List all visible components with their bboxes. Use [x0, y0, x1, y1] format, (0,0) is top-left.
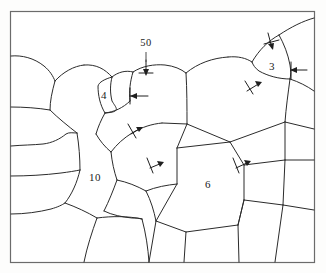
grain-label-10: 10: [89, 171, 101, 183]
grain-structure-diagram: 50 4 3 10 6: [0, 0, 326, 273]
diagram-frame: [11, 12, 315, 263]
grain-label-4: 4: [101, 89, 107, 101]
callout-label-50: 50: [140, 37, 152, 48]
grain-label-6: 6: [205, 178, 211, 190]
grain-label-3: 3: [269, 60, 275, 72]
figure-root: 50 4 3 10 6: [0, 0, 326, 273]
